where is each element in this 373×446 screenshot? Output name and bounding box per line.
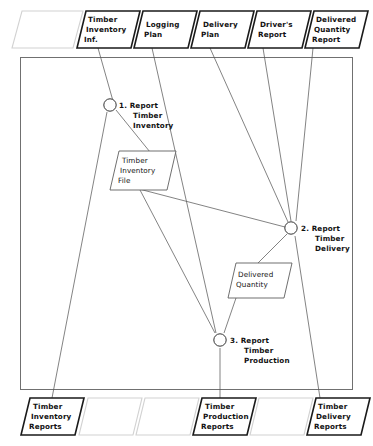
flow-line-p1-to-inventory-reports [52, 112, 107, 398]
logging-plan-line-2: Plan [144, 30, 162, 39]
external-entity-drivers-report[interactable]: Driver's Report [248, 11, 311, 48]
external-entity-timber-inventory-reports[interactable]: Timber Inventory Reports [21, 398, 84, 435]
drivers-report-line-1: Driver's [260, 20, 293, 29]
data-store-timber-inventory-file[interactable]: Timber Inventory File [110, 151, 176, 190]
logging-plan-line-1: Logging [146, 20, 180, 29]
process-3-report-timber-production[interactable]: 3. Report Timber Production [214, 334, 290, 365]
external-entity-delivered-quantity-report[interactable]: Delivered Quantity Report [305, 11, 368, 48]
data-flow-diagram: Timber Inventory Inf. Logging Plan Deliv… [0, 0, 373, 446]
process-1-line-1: 1. Report [119, 101, 158, 110]
delivered-quantity-report-line-2: Quantity [314, 25, 351, 34]
timber-delivery-reports-line-2: Delivery [316, 412, 351, 421]
process-2-line-2: Timber [315, 234, 345, 243]
process-2-report-timber-delivery[interactable]: 2. Report Timber Delivery [285, 222, 350, 253]
flow-line-delivery-plan-to-p2 [210, 48, 288, 222]
timber-production-reports-line-3: Reports [201, 422, 234, 431]
process-3-circle[interactable] [214, 334, 226, 346]
delivered-quantity-line-1: Delivered [238, 270, 273, 279]
data-store-delivered-quantity[interactable]: Delivered Quantity [228, 263, 292, 298]
external-entity-timber-delivery-reports[interactable]: Timber Delivery Reports [307, 398, 370, 435]
process-1-circle[interactable] [104, 99, 116, 111]
timber-delivery-reports-line-3: Reports [314, 422, 347, 431]
timber-inventory-inf-line-3: Inf. [84, 35, 98, 44]
flow-line-p2-to-delivered-quantity [258, 234, 287, 263]
timber-inventory-reports-line-2: Inventory [31, 412, 72, 421]
process-3-line-2: Timber [244, 346, 274, 355]
flow-lines-group [52, 48, 320, 398]
external-entity-blank-top[interactable] [12, 11, 83, 48]
delivery-plan-line-2: Plan [201, 30, 219, 39]
process-1-report-timber-inventory[interactable]: 1. Report Timber Inventory [104, 99, 174, 130]
external-outputs-row: Timber Inventory Reports Timber Producti… [21, 398, 370, 435]
delivered-quantity-line-2: Quantity [236, 280, 269, 289]
timber-production-reports-line-1: Timber [205, 402, 235, 411]
external-entity-blank-bottom-2[interactable] [136, 398, 199, 435]
timber-inventory-file-line-3: File [118, 176, 131, 185]
flow-line-inventory-file-to-p2 [139, 189, 285, 227]
external-inputs-row: Timber Inventory Inf. Logging Plan Deliv… [12, 11, 368, 48]
flow-line-drivers-report-to-p2 [263, 48, 291, 221]
flow-line-inventory-inf-to-p1 [98, 48, 113, 101]
external-entity-blank-bottom-3[interactable] [250, 398, 313, 435]
delivered-quantity-report-line-3: Report [312, 35, 341, 44]
timber-inventory-reports-line-3: Reports [29, 422, 62, 431]
process-1-line-3: Inventory [133, 121, 174, 130]
timber-inventory-reports-line-1: Timber [33, 402, 63, 411]
external-entity-timber-production-reports[interactable]: Timber Production Reports [193, 398, 256, 435]
external-entity-delivery-plan[interactable]: Delivery Plan [191, 11, 254, 48]
process-3-line-3: Production [244, 356, 290, 365]
process-2-line-3: Delivery [315, 244, 350, 253]
external-entity-logging-plan[interactable]: Logging Plan [134, 11, 197, 48]
timber-inventory-file-line-2: Inventory [120, 166, 156, 175]
timber-delivery-reports-line-1: Timber [318, 402, 348, 411]
timber-inventory-file-line-1: Timber [121, 156, 148, 165]
process-1-line-2: Timber [133, 111, 163, 120]
diagram-canvas: Timber Inventory Inf. Logging Plan Deliv… [0, 0, 373, 446]
flow-line-p2-to-delivery-reports [295, 236, 320, 398]
process-2-line-1: 2. Report [301, 224, 340, 233]
timber-inventory-inf-line-2: Inventory [86, 25, 127, 34]
process-3-line-1: 3. Report [230, 336, 269, 345]
delivered-quantity-report-line-1: Delivered [316, 15, 356, 24]
delivery-plan-line-1: Delivery [203, 20, 238, 29]
timber-inventory-inf-line-1: Timber [88, 15, 118, 24]
flow-line-delivered-qty-report-to-p2 [296, 48, 313, 221]
external-entity-timber-inventory-inf[interactable]: Timber Inventory Inf. [77, 11, 140, 48]
drivers-report-line-2: Report [258, 30, 287, 39]
flow-line-delivered-quantity-to-p3 [224, 298, 236, 333]
external-entity-blank-bottom-1[interactable] [79, 398, 142, 435]
flow-line-logging-plan-to-p3 [152, 48, 216, 333]
flow-line-inventory-file-to-p3 [140, 190, 215, 333]
process-2-circle[interactable] [285, 222, 297, 234]
timber-production-reports-line-2: Production [203, 412, 249, 421]
